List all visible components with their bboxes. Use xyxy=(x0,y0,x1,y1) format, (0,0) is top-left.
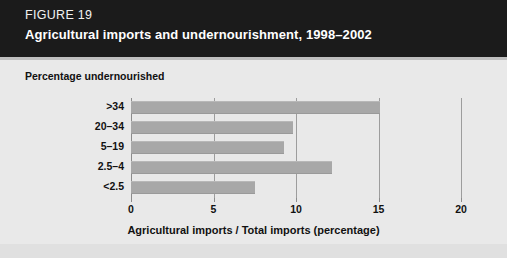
gridline-20 xyxy=(461,98,462,198)
category-label: 5–19 xyxy=(101,140,124,152)
x-tick-label: 20 xyxy=(455,203,467,215)
x-tick-label: 0 xyxy=(128,203,134,215)
x-tick-mark xyxy=(131,198,132,202)
bar-row: 5–19 xyxy=(131,138,461,158)
x-axis: 05101520 xyxy=(131,198,461,218)
x-tick-label: 10 xyxy=(290,203,302,215)
y-axis-group-title: Percentage undernourished xyxy=(25,70,164,82)
bar[interactable] xyxy=(131,121,293,134)
bar-row: >34 xyxy=(131,98,461,118)
x-tick-mark xyxy=(379,198,380,202)
figure-number-label: FIGURE 19 xyxy=(25,8,92,22)
category-label: >34 xyxy=(106,100,124,112)
bar-row: 20–34 xyxy=(131,118,461,138)
x-tick-mark xyxy=(461,198,462,202)
x-tick-label: 15 xyxy=(373,203,385,215)
figure-container: FIGURE 19 Agricultural imports and under… xyxy=(0,0,507,258)
bar[interactable] xyxy=(131,161,332,174)
x-tick-mark xyxy=(214,198,215,202)
bar[interactable] xyxy=(131,141,284,154)
x-tick-label: 5 xyxy=(211,203,217,215)
bar[interactable] xyxy=(131,101,380,114)
bar[interactable] xyxy=(131,181,255,194)
plot-area: >3420–345–192.5–4<2.5 xyxy=(131,98,461,198)
category-label: 2.5–4 xyxy=(98,160,124,172)
bar-row: 2.5–4 xyxy=(131,158,461,178)
category-label: 20–34 xyxy=(95,120,124,132)
x-tick-mark xyxy=(296,198,297,202)
category-label: <2.5 xyxy=(103,180,124,192)
figure-bottom-strip xyxy=(0,244,507,258)
figure-title: Agricultural imports and undernourishmen… xyxy=(25,27,372,42)
figure-header-band: FIGURE 19 Agricultural imports and under… xyxy=(0,0,507,57)
bar-row: <2.5 xyxy=(131,178,461,198)
x-axis-title: Agricultural imports / Total imports (pe… xyxy=(0,224,507,236)
